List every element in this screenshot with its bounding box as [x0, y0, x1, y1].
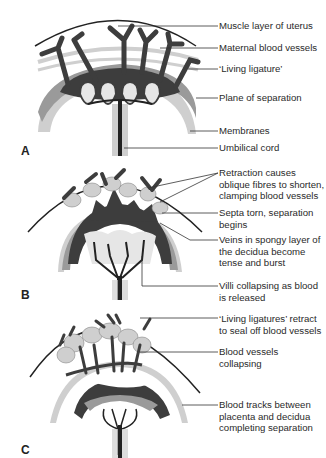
- panel-letter-a: A: [21, 144, 30, 158]
- panel-letter-c: C: [21, 443, 30, 457]
- panel-c: ‘Living ligatures’ retract to seal off b…: [0, 305, 326, 458]
- label-muscle-layer: Muscle layer of uterus: [219, 20, 313, 32]
- label-villi-collapsing: Villi collapsing as blood is released: [219, 280, 318, 303]
- panel-a: Muscle layer of uterus Maternal blood ve…: [0, 0, 326, 160]
- panel-letter-b: B: [21, 288, 30, 302]
- label-maternal-blood-vessels: Maternal blood vessels: [219, 42, 317, 54]
- label-membranes: Membranes: [219, 125, 270, 137]
- label-veins-spongy-layer: Veins in spongy layer of the decidua bec…: [219, 234, 320, 269]
- label-blood-tracks: Blood tracks between placenta and decidu…: [219, 399, 313, 434]
- label-septa-torn: Septa torn, separation begins: [219, 207, 313, 230]
- panel-b: Retraction causes oblique fibres to shor…: [0, 160, 326, 305]
- label-plane-of-separation: Plane of separation: [219, 92, 302, 104]
- label-retraction-causes: Retraction causes oblique fibres to shor…: [219, 167, 324, 202]
- label-living-ligatures-retract: ‘Living ligatures’ retract to seal off b…: [219, 313, 321, 336]
- label-umbilical-cord: Umbilical cord: [219, 142, 279, 154]
- label-living-ligature: ‘Living ligature’: [219, 63, 282, 75]
- label-blood-vessels-collapsing: Blood vessels collapsing: [219, 346, 278, 369]
